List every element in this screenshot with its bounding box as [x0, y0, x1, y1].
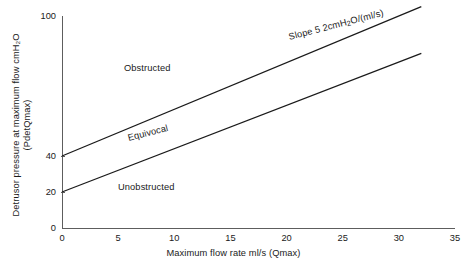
y-axis-label-line1: Detrusor pressure at maximum flow cmH₂O: [11, 33, 23, 216]
obstructed-boundary-line: [62, 7, 421, 156]
x-tick-label: 10: [169, 233, 179, 243]
plot-area: 02040100 05101520253035 Obstructed Equiv…: [62, 16, 455, 228]
x-axis-line: [62, 228, 455, 229]
region-label-obstructed: Obstructed: [124, 63, 170, 73]
nomogram-lines: [62, 16, 455, 228]
y-axis-label-line2: (PdetQmax): [22, 99, 34, 150]
region-label-unobstructed: Unobstructed: [118, 182, 175, 192]
y-axis-label: Detrusor pressure at maximum flow cmH₂O …: [5, 9, 39, 241]
x-tick-label: 0: [59, 233, 64, 243]
x-tick-label: 20: [281, 233, 291, 243]
y-tick-label: 0: [51, 223, 56, 233]
x-tick-label: 30: [394, 233, 404, 243]
x-tick-label: 15: [225, 233, 235, 243]
x-tick-label: 35: [450, 233, 460, 243]
chart-figure: Detrusor pressure at maximum flow cmH₂O …: [0, 0, 467, 266]
y-tick-label: 20: [46, 187, 56, 197]
x-axis-label: Maximum flow rate ml/s (Qmax): [0, 248, 467, 258]
y-tick-label: 100: [40, 11, 56, 21]
x-tick-label: 25: [338, 233, 348, 243]
y-tick-label: 40: [46, 151, 56, 161]
unobstructed-boundary-line: [62, 53, 421, 192]
x-tick-label: 5: [116, 233, 121, 243]
